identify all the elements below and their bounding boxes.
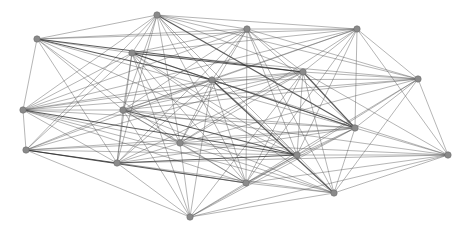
graph-node xyxy=(20,107,26,113)
graph-node xyxy=(300,69,306,75)
graph-node xyxy=(23,147,29,153)
graph-node xyxy=(294,152,300,158)
graph-edge xyxy=(123,29,247,110)
network-graph xyxy=(0,0,467,232)
graph-edge xyxy=(212,79,418,80)
graph-edge xyxy=(303,72,418,79)
graph-node xyxy=(177,140,183,146)
graph-edge xyxy=(355,29,357,128)
graph-edge xyxy=(247,29,334,193)
graph-edge xyxy=(355,128,448,155)
graph-edge xyxy=(334,155,448,193)
graph-node xyxy=(354,26,360,32)
graph-node xyxy=(415,76,421,82)
graph-edge xyxy=(37,39,355,128)
graph-node xyxy=(445,152,451,158)
graph-edge xyxy=(26,72,303,150)
graph-node xyxy=(352,125,358,131)
graph-edge xyxy=(23,110,26,150)
graph-node xyxy=(120,107,126,113)
graph-edge xyxy=(26,150,190,217)
graph-node xyxy=(187,214,193,220)
graph-node xyxy=(243,180,249,186)
graph-edge xyxy=(190,183,246,217)
graph-edge xyxy=(117,163,190,217)
graph-edge xyxy=(26,143,180,150)
graph-node xyxy=(209,77,215,83)
graph-edge xyxy=(157,15,247,29)
graph-edges xyxy=(23,15,448,217)
graph-node xyxy=(34,36,40,42)
graph-edge xyxy=(117,163,334,193)
graph-node xyxy=(331,190,337,196)
graph-edge xyxy=(23,39,37,110)
graph-edge xyxy=(212,29,247,80)
graph-edge xyxy=(132,53,418,79)
graph-node xyxy=(154,12,160,18)
graph-node xyxy=(129,50,135,56)
graph-node xyxy=(114,160,120,166)
graph-edge xyxy=(418,79,448,155)
graph-edge xyxy=(355,79,418,128)
graph-edge xyxy=(334,79,418,193)
graph-edge xyxy=(303,72,448,155)
graph-node xyxy=(244,26,250,32)
graph-edge xyxy=(37,15,157,39)
